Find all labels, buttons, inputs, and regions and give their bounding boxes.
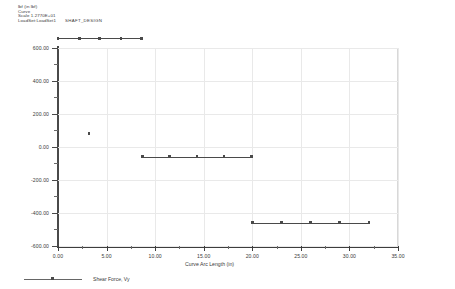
data-point-marker xyxy=(78,37,81,40)
legend-line xyxy=(24,279,82,280)
legend-label: Shear Force, Vy xyxy=(93,276,130,282)
plot-area xyxy=(58,48,398,246)
x-axis-tick xyxy=(58,246,59,251)
data-point-marker xyxy=(141,155,144,158)
header-annotation: lbf (in lbf) Curve Scale 1.2770E+01 Load… xyxy=(18,5,102,23)
data-point-marker xyxy=(280,221,283,224)
x-axis-tick-label: 25.00 xyxy=(281,253,321,259)
x-axis-minor-tick xyxy=(277,246,278,249)
data-point-marker xyxy=(309,221,312,224)
data-point-marker xyxy=(88,132,91,135)
x-axis-tick-label: 15.00 xyxy=(184,253,224,259)
x-axis-tick-label: 35.00 xyxy=(378,253,418,259)
data-point-marker xyxy=(98,37,101,40)
data-point-marker xyxy=(223,155,226,158)
x-axis-tick-label: 10.00 xyxy=(135,253,175,259)
gridline-horizontal xyxy=(58,48,398,49)
gridline-horizontal xyxy=(58,147,398,148)
gridline-horizontal xyxy=(58,81,398,82)
y-axis-tick-label: 200.00 xyxy=(9,111,49,117)
data-point-marker xyxy=(196,155,199,158)
x-axis-tick xyxy=(349,246,350,251)
x-axis-tick-label: 20.00 xyxy=(232,253,272,259)
y-axis-minor-tick xyxy=(54,130,58,131)
x-axis-tick xyxy=(301,246,302,251)
y-axis-tick-label: -200.00 xyxy=(9,177,49,183)
data-point-marker xyxy=(120,37,123,40)
y-axis-tick xyxy=(52,114,58,115)
legend: Shear Force, Vy xyxy=(24,276,130,282)
x-axis-tick xyxy=(252,246,253,251)
y-axis-tick-label: 600.00 xyxy=(9,45,49,51)
x-axis-tick-label: 30.00 xyxy=(329,253,369,259)
x-axis-tick xyxy=(398,246,399,251)
y-axis-minor-tick xyxy=(54,196,58,197)
data-point-marker xyxy=(251,221,254,224)
x-axis-tick-label: 0.00 xyxy=(38,253,78,259)
y-axis-tick xyxy=(52,213,58,214)
y-axis-tick-label: 0.00 xyxy=(9,144,49,150)
x-axis-minor-tick xyxy=(82,246,83,249)
x-axis-tick-label: 5.00 xyxy=(87,253,127,259)
y-axis-minor-tick xyxy=(54,163,58,164)
y-axis-tick xyxy=(52,48,58,49)
x-axis-title: Curve Arc Length (in) xyxy=(185,261,234,267)
y-axis-tick xyxy=(52,81,58,82)
y-axis-tick-label: -400.00 xyxy=(9,210,49,216)
data-point-marker xyxy=(140,37,143,40)
data-point-marker xyxy=(368,221,371,224)
gridline-horizontal xyxy=(58,180,398,181)
header-loadset: LoadSet:LoadSet1 xyxy=(18,18,56,23)
x-axis-tick xyxy=(107,246,108,251)
y-axis-tick xyxy=(52,180,58,181)
y-axis-minor-tick xyxy=(54,64,58,65)
data-point-marker xyxy=(250,155,253,158)
y-axis-tick xyxy=(52,147,58,148)
x-axis-minor-tick xyxy=(228,246,229,249)
x-axis-tick xyxy=(155,246,156,251)
x-axis-tick xyxy=(204,246,205,251)
header-design-name: SHAFT_DESIGN xyxy=(65,19,102,24)
legend-marker xyxy=(51,277,54,280)
y-axis-tick-label: 400.00 xyxy=(9,78,49,84)
x-axis-minor-tick xyxy=(179,246,180,249)
chart-window: lbf (in lbf) Curve Scale 1.2770E+01 Load… xyxy=(0,0,455,289)
y-axis-minor-tick xyxy=(54,97,58,98)
gridline-horizontal xyxy=(58,213,398,214)
y-axis-minor-tick xyxy=(54,229,58,230)
gridline-vertical xyxy=(398,48,399,246)
data-point-marker xyxy=(57,37,60,40)
x-axis-minor-tick xyxy=(325,246,326,249)
x-axis-minor-tick xyxy=(131,246,132,249)
data-point-marker xyxy=(338,221,341,224)
gridline-horizontal xyxy=(58,114,398,115)
data-point-marker xyxy=(168,155,171,158)
x-axis-minor-tick xyxy=(374,246,375,249)
y-axis-tick-label: -600.00 xyxy=(9,243,49,249)
